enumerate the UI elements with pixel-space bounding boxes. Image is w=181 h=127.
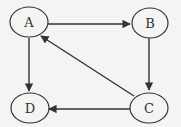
edge-c-to-a bbox=[41, 36, 134, 96]
node-b: B bbox=[132, 8, 168, 38]
node-d: D bbox=[11, 93, 49, 123]
node-c: C bbox=[130, 93, 168, 123]
node-c-label: C bbox=[144, 101, 154, 116]
node-b-label: B bbox=[145, 16, 155, 31]
node-a-label: A bbox=[23, 15, 34, 30]
graph-diagram: A B C D bbox=[0, 0, 181, 127]
node-a: A bbox=[10, 7, 48, 37]
node-d-label: D bbox=[25, 101, 35, 116]
